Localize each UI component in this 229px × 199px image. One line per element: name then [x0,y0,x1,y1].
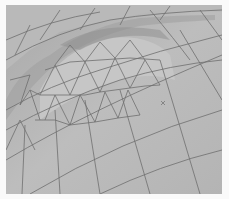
render-viewport [0,0,229,199]
mesh-canvas[interactable] [6,5,222,194]
mesh-surface [6,5,222,194]
